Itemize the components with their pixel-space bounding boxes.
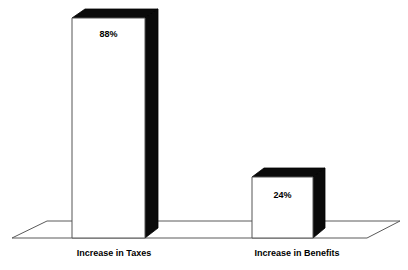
bar-1-side-face xyxy=(313,168,325,238)
category-label-1: Increase in Benefits xyxy=(222,248,372,258)
bar-0-side-face xyxy=(145,9,158,238)
floor-plane xyxy=(12,221,400,238)
bar-1-front-face xyxy=(252,177,313,238)
chart-canvas xyxy=(0,0,408,270)
bar-value-label-0: 88% xyxy=(72,29,145,39)
bar-increase-in-benefits xyxy=(252,168,325,238)
bar-0-front-face xyxy=(72,18,145,238)
bar-1-top-face xyxy=(252,168,325,177)
bar-increase-in-taxes xyxy=(72,9,158,238)
bar-chart: 88% 24% Increase in Taxes Increase in Be… xyxy=(0,0,408,270)
category-label-0: Increase in Taxes xyxy=(44,248,184,258)
bar-0-top-face xyxy=(72,9,158,18)
chart-floor xyxy=(12,221,400,238)
bar-value-label-1: 24% xyxy=(252,190,313,200)
